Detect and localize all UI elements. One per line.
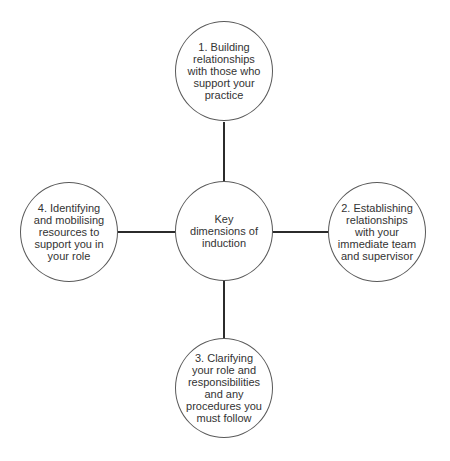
connector-bottom	[223, 279, 225, 339]
node-line: procedures you	[182, 400, 266, 412]
node-line: must follow	[182, 412, 266, 424]
center-line: induction	[182, 237, 266, 249]
node-line: with your	[335, 226, 419, 238]
node-line: support your	[182, 77, 266, 89]
node-line: resources to	[27, 226, 111, 238]
connector-left	[117, 231, 176, 233]
node-line: practice	[182, 89, 266, 101]
node-line: immediate team	[335, 238, 419, 250]
connector-top	[223, 122, 225, 181]
node-line: 1. Building	[182, 41, 266, 53]
node-line: 2. Establishing	[335, 202, 419, 214]
node-3-label: 3. Clarifying your role and responsibili…	[182, 352, 266, 424]
node-line: your role and	[182, 364, 266, 376]
induction-diagram: Key dimensions of induction 1. Building …	[0, 0, 450, 461]
node-4-label: 4. Identifying and mobilising resources …	[27, 202, 111, 262]
node-building-relationships: 1. Building relationships with those who…	[175, 21, 273, 121]
center-label: Key dimensions of induction	[182, 213, 266, 249]
node-clarifying-role: 3. Clarifying your role and responsibili…	[175, 338, 273, 438]
node-line: 3. Clarifying	[182, 352, 266, 364]
node-line: responsibilities	[182, 376, 266, 388]
connector-right	[272, 231, 329, 233]
node-1-label: 1. Building relationships with those who…	[182, 41, 266, 101]
node-line: and any	[182, 388, 266, 400]
node-2-label: 2. Establishing relationships with your …	[335, 202, 419, 262]
node-line: your role	[27, 250, 111, 262]
node-line: relationships	[182, 53, 266, 65]
center-node: Key dimensions of induction	[175, 181, 273, 281]
node-line: and supervisor	[335, 250, 419, 262]
node-line: 4. Identifying	[27, 202, 111, 214]
node-line: and mobilising	[27, 214, 111, 226]
node-line: relationships	[335, 214, 419, 226]
node-line: support you in	[27, 238, 111, 250]
center-line: Key	[182, 213, 266, 225]
node-identifying-resources: 4. Identifying and mobilising resources …	[20, 182, 118, 282]
center-line: dimensions of	[182, 225, 266, 237]
node-line: with those who	[182, 65, 266, 77]
node-establishing-relationships: 2. Establishing relationships with your …	[328, 182, 426, 282]
